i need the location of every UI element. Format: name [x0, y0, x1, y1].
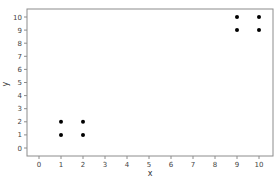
data-point [81, 133, 85, 137]
data-point [257, 15, 261, 19]
x-tick-label: 7 [191, 161, 195, 169]
x-tick-label: 6 [169, 161, 174, 169]
y-tick-label: 10 [13, 14, 22, 22]
y-tick-label: 6 [18, 66, 23, 74]
y-tick-label: 7 [18, 53, 22, 61]
y-axis-ticks: 012345678910 [13, 14, 27, 153]
x-tick-label: 9 [235, 161, 239, 169]
data-point [235, 15, 239, 19]
data-point [81, 120, 85, 124]
y-tick-label: 4 [18, 92, 23, 100]
x-tick-label: 3 [103, 161, 107, 169]
x-tick-label: 5 [147, 161, 151, 169]
x-axis-ticks: 012345678910 [37, 156, 264, 169]
y-tick-label: 8 [18, 40, 22, 48]
x-tick-label: 8 [213, 161, 217, 169]
scatter-chart: 012345678910 012345678910 x y [0, 0, 279, 180]
data-point [257, 28, 261, 32]
y-tick-label: 2 [18, 118, 22, 126]
y-tick-label: 5 [18, 79, 22, 87]
x-tick-label: 10 [255, 161, 264, 169]
x-tick-label: 0 [37, 161, 41, 169]
y-axis-label: y [1, 81, 10, 86]
data-point [59, 120, 63, 124]
y-tick-label: 0 [18, 145, 22, 153]
y-tick-label: 9 [18, 27, 22, 35]
data-point [59, 133, 63, 137]
data-point [235, 28, 239, 32]
x-tick-label: 1 [59, 161, 63, 169]
y-tick-label: 1 [18, 131, 22, 139]
y-tick-label: 3 [18, 105, 22, 113]
x-tick-label: 2 [81, 161, 85, 169]
x-axis-label: x [148, 169, 153, 178]
x-tick-label: 4 [125, 161, 130, 169]
